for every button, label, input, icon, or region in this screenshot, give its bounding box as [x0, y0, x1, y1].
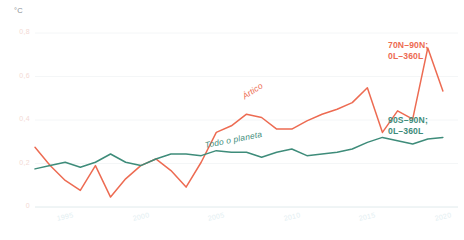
chart-container: °C 0,80,60,40,20 19952000200520102015202… — [0, 0, 464, 240]
y-axis-tick-label: 0 — [8, 202, 30, 209]
series-line-ártico — [35, 48, 443, 197]
y-axis-tick-label: 0,4 — [8, 115, 30, 122]
y-axis-tick-label: 0,6 — [8, 72, 30, 79]
legend-arctic-line2: 0L–360L — [388, 51, 428, 62]
legend-global: 90S–90N; 0L–360L — [388, 115, 428, 137]
legend-global-line1: 90S–90N; — [388, 115, 428, 126]
legend-arctic-line1: 70N–90N; — [388, 40, 428, 51]
y-axis-tick-label: 0,8 — [8, 28, 30, 35]
y-axis-tick-label: 0,2 — [8, 159, 30, 166]
legend-global-line2: 0L–360L — [388, 126, 428, 137]
legend-arctic: 70N–90N; 0L–360L — [388, 40, 428, 62]
series-lines — [35, 48, 443, 197]
